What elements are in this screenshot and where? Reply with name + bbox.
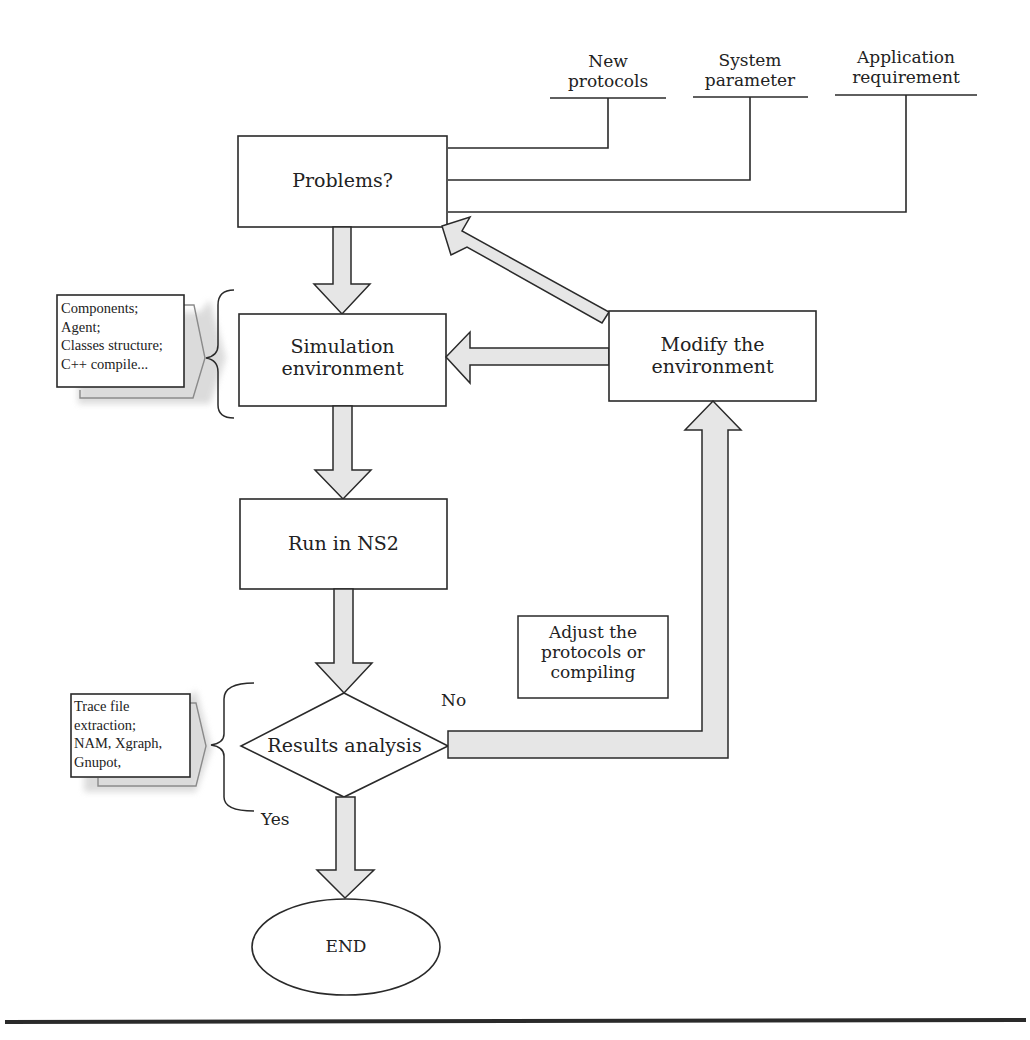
simulation-label: Simulation environment (239, 335, 446, 380)
run-label: Run in NS2 (240, 532, 447, 554)
simulation-label-line1: Simulation (239, 335, 446, 357)
modify-label: Modify the environment (609, 333, 816, 378)
modify-label-line1: Modify the (609, 333, 816, 355)
arrow-run-to-results (316, 589, 372, 693)
analysis-tools-line: Trace file (74, 697, 190, 716)
simulation-details-line: Components; (61, 299, 185, 318)
input-application-requirement: Application requirement (832, 48, 980, 87)
edge-label-yes: Yes (261, 809, 311, 829)
edge-label-no: No (441, 690, 481, 710)
problems-label: Problems? (238, 169, 447, 191)
adjust-label-line3: compiling (518, 662, 668, 682)
adjust-label-line2: protocols or (518, 642, 668, 662)
arrow-results-to-modify (448, 401, 741, 758)
analysis-tools-line: extraction; (74, 716, 190, 735)
analysis-tools-line: Gnupot, (74, 753, 190, 772)
input-system-parameter: System parameter (690, 51, 810, 90)
end-label: END (252, 936, 440, 956)
input-new-protocols: New protocols (550, 52, 666, 91)
simulation-details-line: Classes structure; (61, 336, 185, 355)
simulation-label-line2: environment (239, 357, 446, 379)
analysis-tools-note: Trace file extraction; NAM, Xgraph, Gnup… (74, 697, 190, 771)
adjust-label: Adjust the protocols or compiling (518, 622, 668, 682)
results-label: Results analysis (241, 734, 448, 756)
arrow-simulation-to-run (315, 406, 371, 499)
adjust-label-line1: Adjust the (518, 622, 668, 642)
input-system-parameter-line1: System (690, 51, 810, 71)
input-application-requirement-line1: Application (832, 48, 980, 68)
simulation-details-line: Agent; (61, 318, 185, 337)
input-new-protocols-line2: protocols (550, 72, 666, 92)
arrow-results-to-end (317, 797, 374, 898)
analysis-tools-line: NAM, Xgraph, (74, 734, 190, 753)
input-system-parameter-line2: parameter (690, 71, 810, 91)
simulation-details-note: Components; Agent; Classes structure; C+… (61, 299, 185, 373)
arrow-problems-to-simulation (314, 227, 370, 314)
flowchart-canvas (0, 0, 1030, 1040)
arrow-modify-to-simulation (446, 332, 609, 383)
input-connectors (448, 95, 977, 212)
bottom-rule (5, 1020, 1026, 1022)
modify-label-line2: environment (609, 355, 816, 377)
input-application-requirement-line2: requirement (832, 68, 980, 88)
arrow-modify-to-problems (442, 217, 609, 323)
simulation-details-line: C++ compile... (61, 355, 185, 374)
input-new-protocols-line1: New (550, 52, 666, 72)
